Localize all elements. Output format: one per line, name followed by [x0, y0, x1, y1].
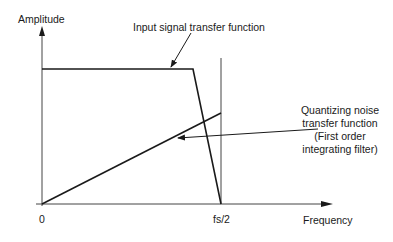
noise-transfer-curve	[42, 113, 221, 204]
noise-annotation-line-2: transfer function	[288, 117, 392, 130]
signal-annotation: Input signal transfer function	[133, 21, 265, 34]
x-axis-label: Frequency	[303, 214, 353, 227]
x-axis-arrow-icon	[321, 201, 333, 207]
noise-annotation-line-1: Quantizing noise	[288, 104, 392, 117]
y-axis-label: Amplitude	[18, 13, 65, 26]
x-tick-nyquist: fs/2	[213, 213, 230, 226]
noise-annotation-line-4: integrating filter)	[288, 143, 392, 156]
noise-annotation-line-3: (First order	[288, 130, 392, 143]
x-tick-zero: 0	[39, 213, 45, 226]
signal-annotation-arrow	[171, 33, 191, 67]
y-axis-arrow-icon	[39, 26, 45, 36]
